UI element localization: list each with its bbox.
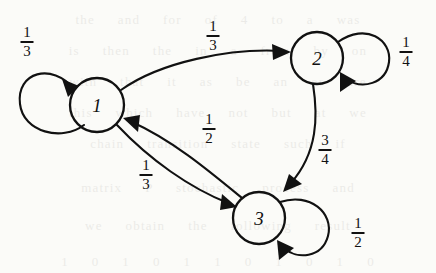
markov-chain-figure: the and for of 4 to a was is then the in… — [0, 0, 436, 273]
edge-label-3-to-3: 1 2 — [352, 216, 365, 250]
edge-label-1-to-3-denominator: 3 — [140, 176, 152, 192]
edge-1-to-3 — [117, 125, 237, 210]
edge-label-1-to-3: 1 3 — [140, 158, 153, 192]
edge-label-1-to-1: 1 3 — [21, 25, 34, 59]
edge-1-to-1 — [20, 73, 84, 133]
edge-label-2-to-2-numerator: 1 — [400, 35, 412, 51]
edge-3-to-3-arrowhead — [277, 240, 294, 260]
edge-label-1-to-1-numerator: 1 — [21, 25, 33, 41]
edge-3-to-3 — [277, 199, 329, 260]
edge-1-to-1-path — [20, 73, 84, 133]
node-2-label: 2 — [312, 48, 322, 70]
edge-2-to-3 — [283, 84, 316, 192]
edge-label-3-to-3-numerator: 1 — [352, 216, 364, 232]
edge-label-2-to-2: 1 4 — [400, 35, 413, 69]
edge-2-to-2 — [338, 33, 389, 92]
edge-label-2-to-3-numerator: 3 — [319, 133, 331, 149]
node-1-label: 1 — [92, 95, 102, 117]
edge-label-1-to-3-numerator: 1 — [140, 158, 152, 174]
edge-2-to-2-arrowhead — [340, 72, 356, 92]
edge-label-1-to-2-numerator: 1 — [207, 19, 219, 35]
edge-1-to-2-path — [121, 51, 282, 90]
edge-label-3-to-1-denominator: 2 — [203, 130, 215, 146]
node-3-label: 3 — [254, 208, 264, 230]
edge-label-3-to-3-denominator: 2 — [352, 234, 364, 250]
edge-label-2-to-3-denominator: 4 — [319, 151, 331, 167]
edge-label-2-to-3: 3 4 — [319, 133, 332, 167]
edge-label-1-to-1-denominator: 3 — [21, 43, 33, 59]
edge-2-to-3-arrowhead — [283, 174, 302, 192]
edge-label-1-to-2: 1 3 — [207, 19, 220, 53]
edge-label-2-to-2-denominator: 4 — [400, 53, 412, 69]
edge-2-to-3-path — [291, 84, 316, 183]
edge-label-3-to-1: 1 2 — [203, 112, 216, 146]
edge-label-3-to-1-numerator: 1 — [203, 112, 215, 128]
edge-3-to-1-arrowhead — [123, 115, 140, 132]
edge-label-1-to-2-denominator: 3 — [207, 37, 219, 53]
edge-1-to-2-arrowhead — [272, 44, 291, 60]
